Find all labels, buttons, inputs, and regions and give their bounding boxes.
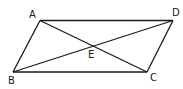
- parallelogram-diagram: A B C D E: [0, 0, 183, 89]
- vertex-label-d: D: [172, 7, 180, 18]
- diagonal-bd: [13, 21, 173, 73]
- vertex-label-c: C: [150, 72, 157, 83]
- vertex-label-a: A: [29, 9, 36, 20]
- vertex-label-b: B: [8, 75, 15, 86]
- intersection-label-e: E: [88, 49, 94, 60]
